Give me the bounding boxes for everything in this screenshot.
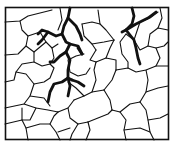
thin-crack-line bbox=[58, 8, 62, 30]
thin-crack-line bbox=[96, 58, 116, 70]
thin-crack-line bbox=[26, 124, 60, 140]
thin-crack-line bbox=[104, 90, 112, 110]
thin-crack-line bbox=[58, 128, 70, 132]
thin-crack-line bbox=[134, 12, 158, 40]
thin-crack-line bbox=[148, 114, 168, 120]
thin-crack-line bbox=[140, 102, 150, 132]
thin-crack-line bbox=[146, 70, 148, 92]
wide-crack-line bbox=[68, 18, 82, 40]
thin-crack-line bbox=[68, 54, 90, 76]
thin-crack-line bbox=[50, 112, 58, 124]
thin-crack-line bbox=[158, 8, 162, 28]
thin-crack-line bbox=[58, 100, 74, 112]
thin-crack-line bbox=[92, 62, 96, 92]
thin-crack-line bbox=[22, 108, 36, 120]
crack-pattern-svg bbox=[0, 0, 175, 146]
thin-crack-line bbox=[34, 64, 54, 84]
wide-crack-line bbox=[78, 48, 82, 54]
thin-crack-line bbox=[120, 102, 140, 112]
wide-crack-line bbox=[66, 52, 72, 80]
thin-crack-line bbox=[116, 66, 168, 72]
thin-cracks bbox=[5, 8, 168, 140]
thin-crack-line bbox=[86, 122, 90, 140]
thin-crack-line bbox=[5, 10, 52, 22]
thin-crack-line bbox=[156, 48, 160, 66]
thin-crack-line bbox=[148, 28, 168, 46]
thin-crack-line bbox=[90, 50, 96, 62]
thin-crack-line bbox=[92, 40, 114, 44]
thin-crack-line bbox=[5, 120, 22, 124]
thin-crack-line bbox=[82, 24, 96, 50]
wide-crack-line bbox=[72, 80, 84, 86]
thin-crack-line bbox=[104, 70, 116, 90]
wide-crack-line bbox=[48, 78, 68, 102]
thin-crack-line bbox=[5, 46, 34, 82]
thin-crack-line bbox=[5, 21, 28, 55]
thin-crack-line bbox=[140, 86, 168, 102]
thin-crack-line bbox=[120, 34, 128, 68]
thin-crack-line bbox=[70, 124, 78, 140]
thin-crack-line bbox=[22, 108, 28, 140]
thin-crack-line bbox=[112, 110, 126, 140]
crack-pattern-diagram bbox=[0, 0, 175, 146]
thin-crack-line bbox=[82, 22, 114, 40]
thin-crack-line bbox=[88, 110, 112, 122]
thin-crack-line bbox=[68, 108, 88, 124]
thin-crack-line bbox=[5, 72, 34, 108]
wide-crack-line bbox=[126, 12, 156, 30]
thin-crack-line bbox=[106, 40, 114, 58]
thin-crack-line bbox=[74, 90, 104, 100]
thin-crack-line bbox=[52, 44, 58, 48]
wide-crack-line bbox=[68, 78, 70, 96]
thin-crack-line bbox=[24, 104, 58, 112]
wide-cracks bbox=[38, 8, 156, 102]
thin-crack-line bbox=[98, 10, 100, 24]
